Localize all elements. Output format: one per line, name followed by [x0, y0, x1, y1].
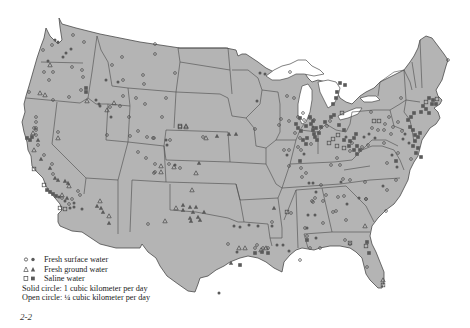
fresh-surface-water-marker [54, 39, 57, 42]
saline-water-marker [434, 102, 438, 106]
figure-label: 2-2 [20, 312, 32, 322]
fresh-surface-water-marker [315, 191, 318, 194]
fresh-surface-water-marker [308, 182, 311, 185]
saline-water-marker [298, 159, 302, 163]
saline-water-marker [315, 138, 319, 142]
saline-water-marker [427, 96, 431, 100]
saline-water-marker [418, 131, 422, 135]
fresh-surface-water-marker [264, 73, 267, 76]
fresh-surface-water-marker [81, 208, 84, 211]
saline-water-marker [347, 144, 351, 148]
fresh-surface-water-marker [404, 133, 407, 136]
fresh-surface-water-marker [218, 292, 221, 295]
legend-label: Fresh ground water [44, 265, 108, 275]
saline-water-marker [294, 122, 298, 126]
saline-water-marker [342, 128, 346, 132]
saline-water-marker [367, 251, 371, 255]
fresh-surface-water-marker [236, 251, 239, 254]
legend-note-open: Open circle: ¼ cubic kilometer per day [22, 293, 150, 303]
saline-water-marker [305, 136, 309, 140]
saline-water-marker [84, 90, 88, 94]
saline-water-marker [414, 151, 418, 155]
us-landmass [22, 18, 448, 292]
legend-label: Saline water [44, 274, 85, 284]
lake-ontario [360, 96, 380, 102]
saline-water-marker [335, 90, 339, 94]
saline-water-marker [301, 138, 305, 142]
saline-water-marker [314, 126, 318, 130]
fresh-surface-water-marker [248, 224, 251, 227]
saline-water-marker [323, 120, 327, 124]
legend-note-solid: Solid circle: 1 cubic kilometer per day [22, 284, 150, 294]
fresh-surface-water-marker [340, 181, 343, 184]
saline-water-marker [354, 132, 358, 136]
saline-water-marker [238, 263, 242, 267]
saline-water-marker [308, 115, 312, 119]
fresh-surface-water-marker [57, 41, 60, 44]
saline-water-marker [309, 122, 313, 126]
saline-water-marker [331, 102, 335, 106]
fresh-surface-water-marker [282, 244, 285, 247]
fresh-surface-water-marker [276, 244, 279, 247]
saline-water-marker [260, 250, 264, 254]
fresh-surface-water-marker [408, 142, 411, 145]
fresh-surface-water-marker [312, 126, 315, 129]
fresh-surface-water-marker [239, 226, 242, 229]
fresh-surface-water-marker [315, 237, 318, 240]
fresh-surface-water-marker [62, 56, 65, 59]
saline-water-marker [343, 83, 347, 87]
saline-water-marker [348, 139, 352, 143]
fresh-surface-water-marker [363, 136, 366, 139]
saline-water-marker [419, 110, 423, 114]
saline-water-marker [365, 240, 369, 244]
fresh-surface-water-marker [64, 200, 67, 203]
fresh-surface-water-marker [105, 79, 108, 82]
saline-water-marker [416, 146, 420, 150]
fresh-surface-water-marker [307, 214, 310, 217]
saline-water-marker [419, 155, 423, 159]
saline-water-marker [358, 148, 362, 152]
fresh-surface-water-marker [95, 99, 98, 102]
saline-water-marker [424, 107, 428, 111]
saline-water-marker [427, 111, 431, 115]
legend-item-fresh-ground: Fresh ground water [22, 265, 150, 275]
saline-water-marker [430, 102, 434, 106]
saline-water-marker [338, 81, 342, 85]
circle-symbol-icon [22, 255, 44, 264]
saline-water-marker [84, 86, 88, 90]
saline-water-marker [342, 138, 346, 142]
saline-water-marker [412, 111, 416, 115]
fresh-surface-water-marker [117, 81, 120, 84]
saline-water-marker [394, 159, 398, 163]
fresh-surface-water-marker [306, 227, 309, 230]
saline-water-marker [431, 98, 435, 102]
legend-label: Fresh surface water [44, 255, 108, 265]
fresh-surface-water-marker [233, 225, 236, 228]
fresh-surface-water-marker [256, 100, 259, 103]
saline-water-marker [298, 116, 302, 120]
saline-water-marker [299, 129, 303, 133]
fresh-surface-water-marker [110, 116, 113, 119]
fresh-surface-water-marker [346, 203, 349, 206]
legend-item-fresh-surface: Fresh surface water [22, 255, 150, 265]
fresh-surface-water-marker [314, 214, 317, 217]
saline-water-marker [352, 148, 356, 152]
fresh-surface-water-marker [65, 52, 68, 55]
saline-water-marker [304, 142, 308, 146]
fresh-surface-water-marker [99, 105, 102, 108]
fresh-surface-water-marker [358, 197, 361, 200]
saline-water-marker [355, 144, 359, 148]
fresh-surface-water-marker [165, 139, 168, 142]
saline-water-marker [266, 251, 270, 255]
saline-water-marker [409, 115, 413, 119]
fresh-surface-water-marker [299, 259, 302, 262]
saline-water-marker [334, 96, 338, 100]
fresh-surface-water-marker [303, 153, 306, 156]
fresh-surface-water-marker [70, 48, 73, 51]
fresh-surface-water-marker [368, 133, 371, 136]
saline-water-marker [304, 124, 308, 128]
fresh-surface-water-marker [382, 185, 385, 188]
legend-item-saline: Saline water [22, 274, 150, 284]
saline-water-marker [319, 125, 323, 129]
saline-water-marker [317, 131, 321, 135]
